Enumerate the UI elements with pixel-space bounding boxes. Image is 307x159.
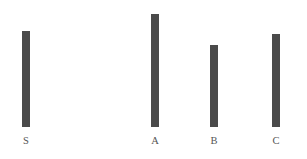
bar-label-b: B — [194, 136, 234, 147]
bar-label-a: A — [135, 136, 175, 147]
bar-a[interactable] — [151, 14, 159, 127]
bar-label-s: S — [6, 136, 46, 147]
plot-area: S A B C — [0, 0, 307, 159]
bar-label-c: C — [256, 136, 296, 147]
bar-c[interactable] — [272, 34, 280, 127]
bar-s[interactable] — [22, 31, 30, 127]
bar-chart: S A B C — [0, 0, 307, 159]
bar-b[interactable] — [210, 45, 218, 127]
